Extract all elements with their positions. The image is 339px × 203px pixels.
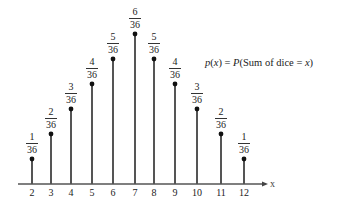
stem-dot-12 xyxy=(242,157,247,162)
fraction-denominator: 36 xyxy=(123,19,147,30)
fraction-numerator: 3 xyxy=(185,82,209,93)
x-tick-10: 10 xyxy=(187,187,207,198)
stem-dot-9 xyxy=(173,82,178,87)
formula-lhs-func: p xyxy=(205,57,210,68)
value-label-9: 436 xyxy=(163,57,187,80)
value-label-11: 236 xyxy=(209,107,233,130)
x-axis-label: x xyxy=(270,178,275,189)
formula-rhs-eq: = xyxy=(296,57,302,68)
value-label-10: 336 xyxy=(185,82,209,105)
formula-rhs-func: P xyxy=(233,57,239,68)
formula-lhs-var: x xyxy=(214,57,219,68)
stem-dot-2 xyxy=(30,157,35,162)
stem-dot-8 xyxy=(152,57,157,62)
stem-chart xyxy=(0,0,339,203)
value-label-2: 136 xyxy=(20,132,44,155)
value-label-8: 536 xyxy=(142,32,166,55)
fraction-numerator: 1 xyxy=(232,132,256,143)
fraction-denominator: 36 xyxy=(20,144,44,155)
formula-rhs-text: Sum of dice xyxy=(243,57,294,68)
stem-dot-3 xyxy=(49,132,54,137)
stem-dot-10 xyxy=(195,107,200,112)
value-label-6: 536 xyxy=(101,32,125,55)
fraction-denominator: 36 xyxy=(142,44,166,55)
stem-dot-11 xyxy=(219,132,224,137)
fraction-numerator: 1 xyxy=(20,132,44,143)
value-label-12: 136 xyxy=(232,132,256,155)
fraction-numerator: 5 xyxy=(101,32,125,43)
formula-rhs-var: x xyxy=(305,57,310,68)
fraction-numerator: 3 xyxy=(59,82,83,93)
fraction-denominator: 36 xyxy=(80,69,104,80)
x-tick-4: 4 xyxy=(61,187,81,198)
x-tick-8: 8 xyxy=(144,187,164,198)
x-tick-5: 5 xyxy=(82,187,102,198)
fraction-denominator: 36 xyxy=(209,119,233,130)
stem-dot-5 xyxy=(90,82,95,87)
x-tick-9: 9 xyxy=(165,187,185,198)
value-label-7: 636 xyxy=(123,7,147,30)
fraction-numerator: 2 xyxy=(39,107,63,118)
fraction-numerator: 5 xyxy=(142,32,166,43)
x-tick-2: 2 xyxy=(22,187,42,198)
fraction-denominator: 36 xyxy=(163,69,187,80)
x-tick-12: 12 xyxy=(234,187,254,198)
formula-equals: = xyxy=(225,57,231,68)
x-tick-3: 3 xyxy=(41,187,61,198)
stem-dot-4 xyxy=(69,107,74,112)
formula-annotation: p(x) = P(Sum of dice = x) xyxy=(205,57,313,68)
x-axis-arrow-icon xyxy=(262,182,268,187)
x-tick-6: 6 xyxy=(103,187,123,198)
fraction-denominator: 36 xyxy=(101,44,125,55)
value-label-5: 436 xyxy=(80,57,104,80)
fraction-denominator: 36 xyxy=(185,94,209,105)
fraction-denominator: 36 xyxy=(232,144,256,155)
fraction-denominator: 36 xyxy=(59,94,83,105)
x-tick-7: 7 xyxy=(125,187,145,198)
fraction-numerator: 4 xyxy=(80,57,104,68)
value-label-3: 236 xyxy=(39,107,63,130)
fraction-numerator: 4 xyxy=(163,57,187,68)
x-tick-11: 11 xyxy=(211,187,231,198)
fraction-numerator: 2 xyxy=(209,107,233,118)
fraction-numerator: 6 xyxy=(123,7,147,18)
stem-dot-7 xyxy=(133,32,138,37)
fraction-denominator: 36 xyxy=(39,119,63,130)
value-label-4: 336 xyxy=(59,82,83,105)
stem-dot-6 xyxy=(111,57,116,62)
